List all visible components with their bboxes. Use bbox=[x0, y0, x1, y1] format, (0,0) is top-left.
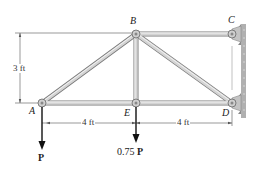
node-label-b: B bbox=[130, 16, 136, 26]
load-arrow-e bbox=[133, 107, 140, 143]
load-arrow-a bbox=[39, 107, 46, 150]
span-dimension bbox=[42, 110, 232, 126]
pin-d bbox=[228, 99, 236, 107]
node-label-e: E bbox=[124, 108, 130, 118]
load-label-e: 0.75 P bbox=[117, 147, 143, 157]
pin-a bbox=[38, 99, 46, 107]
ed-dimension-label: 4 ft bbox=[176, 118, 190, 127]
truss-members bbox=[42, 33, 232, 103]
load-label-a: P bbox=[38, 153, 44, 163]
node-label-c: C bbox=[228, 15, 235, 25]
pin-e bbox=[132, 99, 140, 107]
height-dimension-label: 3 ft bbox=[12, 64, 26, 73]
ae-dimension-label: 4 ft bbox=[81, 118, 95, 127]
pin-b bbox=[132, 30, 140, 38]
node-label-a: A bbox=[29, 106, 35, 116]
pin-c bbox=[228, 30, 236, 38]
node-label-d: D bbox=[222, 108, 229, 118]
height-dimension bbox=[15, 33, 136, 103]
